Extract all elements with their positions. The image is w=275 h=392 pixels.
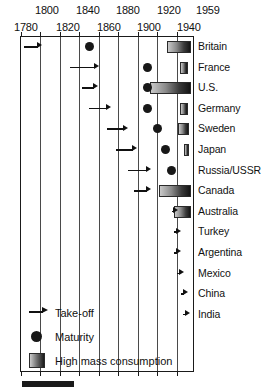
take-off-arrow: [183, 308, 190, 322]
country-label-britain: Britain: [198, 40, 227, 52]
country-label-australia: Australia: [198, 205, 238, 217]
axis-tick-label-1840: 1840: [76, 5, 100, 16]
take-off-arrow: [82, 81, 99, 95]
chart-row: [21, 164, 193, 178]
high-mass-consumption-bar: [180, 103, 188, 115]
growth-stages-chart: 1800 1840 1880 1920 1959 1780 1820 1860 …: [0, 0, 275, 392]
tick-1880: [118, 32, 119, 37]
country-label-germany: Germany: [198, 102, 240, 114]
chart-row: [21, 287, 193, 301]
maturity-dot: [153, 124, 162, 133]
country-label-india: India: [198, 308, 220, 320]
tick-1800: [40, 32, 41, 37]
country-label-canada: Canada: [198, 184, 234, 196]
take-off-arrow: [70, 61, 99, 75]
legend-label-highmass: High mass consumption: [55, 354, 172, 368]
maturity-dot: [167, 166, 176, 175]
high-mass-consumption-bar: [159, 185, 191, 197]
take-off-arrow: [177, 267, 185, 281]
take-off-arrow: [134, 184, 152, 198]
tick-1920: [157, 371, 158, 376]
tick-1800: [40, 371, 41, 376]
take-off-arrow: [116, 143, 137, 157]
maturity-dot-icon: [31, 331, 42, 342]
country-label-argentina: Argentina: [198, 246, 242, 258]
tick-1940: [177, 371, 178, 376]
axis-tick-label-1959: 1959: [196, 5, 220, 16]
tick-1840: [79, 371, 80, 376]
chart-row: [21, 143, 193, 157]
country-label-japan: Japan: [198, 143, 226, 155]
axis-tick-label-1800: 1800: [35, 5, 59, 16]
take-off-arrow: [181, 287, 188, 301]
take-off-arrow: [24, 40, 43, 54]
axis-tick-label-1940: 1940: [177, 22, 201, 33]
tick-1940: [177, 32, 178, 37]
scale-bar: [22, 381, 74, 387]
high-mass-consumption-bar: [167, 41, 191, 53]
country-label-mexico: Mexico: [198, 267, 231, 279]
take-off-arrow-icon: [29, 305, 49, 319]
legend-label-takeoff: Take-off: [55, 306, 94, 320]
take-off-arrow: [174, 225, 182, 239]
tick-1860: [99, 371, 100, 376]
take-off-arrow: [174, 246, 182, 260]
country-label-china: China: [198, 287, 225, 299]
tick-1820: [60, 371, 61, 376]
tick-1900: [138, 32, 139, 37]
tick-1860: [99, 32, 100, 37]
maturity-dot: [143, 63, 152, 72]
take-off-arrow: [107, 122, 128, 136]
chart-row: [21, 40, 193, 54]
tick-1880: [118, 371, 119, 376]
high-mass-consumption-bar-icon: [29, 353, 45, 368]
chart-row: [21, 205, 193, 219]
chart-row: [21, 61, 193, 75]
legend-label-maturity: Maturity: [55, 330, 94, 344]
country-label-turkey: Turkey: [198, 225, 229, 237]
chart-row: [21, 81, 193, 95]
chart-row: [21, 102, 193, 116]
chart-row: [21, 246, 193, 260]
tick-1920: [157, 32, 158, 37]
take-off-arrow: [172, 205, 179, 219]
chart-row: [21, 225, 193, 239]
tick-1780: [21, 32, 22, 37]
plot-area: Take-off Maturity High mass consumption: [20, 36, 194, 372]
take-off-arrow: [89, 102, 111, 116]
chart-row: [21, 122, 193, 136]
high-mass-consumption-bar: [184, 144, 189, 156]
take-off-arrow: [128, 164, 151, 178]
high-mass-consumption-bar: [150, 82, 191, 94]
axis-tick-label-1920: 1920: [157, 5, 181, 16]
high-mass-consumption-bar: [180, 62, 188, 74]
chart-row: [21, 184, 193, 198]
country-label-sweden: Sweden: [198, 122, 235, 134]
country-label-russia-ussr: Russia/USSR: [198, 164, 261, 176]
maturity-dot: [143, 104, 152, 113]
tick-1840: [79, 32, 80, 37]
country-label-u-s-: U.S.: [198, 81, 218, 93]
tick-1900: [138, 371, 139, 376]
axis-tick-label-1860: 1860: [97, 22, 121, 33]
axis-tick-label-1880: 1880: [116, 5, 140, 16]
axis-tick-label-1780: 1780: [14, 22, 38, 33]
high-mass-consumption-bar: [178, 123, 190, 135]
tick-1780: [21, 371, 22, 376]
maturity-dot: [85, 42, 94, 51]
maturity-dot: [161, 145, 170, 154]
tick-1820: [60, 32, 61, 37]
chart-row: [21, 267, 193, 281]
country-label-france: France: [198, 61, 230, 73]
